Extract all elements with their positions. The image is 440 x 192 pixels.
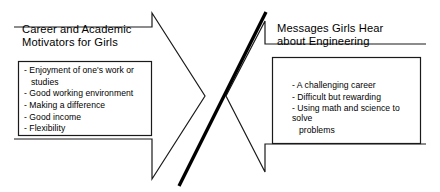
left-panel-title: Career and Academic Motivators for Girls (22, 23, 131, 49)
list-item: - Using math and science to solve (292, 103, 418, 123)
list-item: studies (24, 77, 152, 87)
list-item: problems (292, 125, 418, 135)
list-item: - A challenging career (292, 80, 418, 90)
diagonal-divider-line (179, 12, 266, 186)
list-item: - Good working environment (24, 88, 152, 98)
list-item: - Difficult but rewarding (292, 92, 418, 102)
left-panel-bullet-list: - Enjoyment of one's work or studies - G… (24, 65, 152, 135)
diagram-canvas: Career and Academic Motivators for Girls… (0, 0, 440, 192)
right-panel-bullet-list: - A challenging career - Difficult but r… (292, 80, 418, 137)
right-panel-title: Messages Girls Hear about Engineering (277, 22, 383, 48)
list-item: - Good income (24, 112, 152, 122)
list-item: - Enjoyment of one's work or (24, 65, 152, 75)
list-item: - Making a difference (24, 100, 152, 110)
list-item: - Flexibility (24, 123, 152, 133)
